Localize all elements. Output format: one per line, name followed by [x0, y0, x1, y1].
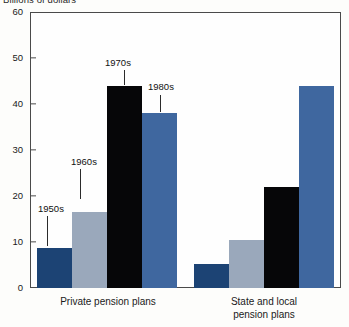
leader-line-1980s	[160, 95, 161, 112]
annotation-1950s: 1950s	[38, 204, 64, 214]
y-tick-label-20: 20	[12, 191, 23, 201]
y-tick-label-50: 50	[12, 53, 23, 63]
y-tick-label-0: 0	[18, 283, 23, 293]
bars-layer	[30, 12, 341, 288]
y-tick-label-40: 40	[12, 99, 23, 109]
bar-state-1950s	[194, 264, 229, 288]
bar-private-1980s	[142, 113, 177, 288]
y-tick-label-60: 60	[12, 7, 23, 17]
bar-private-1950s	[37, 248, 72, 288]
category-label-private: Private pension plans	[60, 296, 156, 309]
annotation-1960s: 1960s	[71, 157, 97, 167]
y-tick-label-30: 30	[12, 145, 23, 155]
annotation-1970s: 1970s	[105, 58, 131, 68]
category-label-state-line2: pension plans	[233, 309, 295, 322]
bar-state-1970s	[264, 187, 299, 288]
bar-chart: Billions of dollars 60 50 40 30 20 10 0 …	[0, 0, 349, 327]
annotation-1980s: 1980s	[148, 82, 174, 92]
leader-line-1950s	[47, 216, 48, 246]
leader-line-1960s	[80, 169, 81, 199]
bar-state-1980s	[299, 86, 334, 288]
y-axis: 60 50 40 30 20 10 0	[0, 0, 30, 327]
leader-line-1970s	[124, 70, 125, 85]
bar-state-1960s	[229, 240, 264, 288]
y-tick-label-10: 10	[12, 237, 23, 247]
bar-private-1960s	[72, 212, 107, 288]
category-label-state-line1: State and local	[231, 296, 297, 309]
bar-private-1970s	[107, 86, 142, 288]
